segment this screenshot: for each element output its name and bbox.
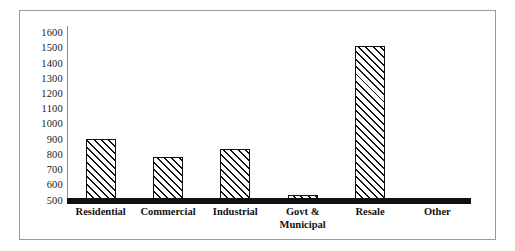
bar-slot — [404, 26, 471, 201]
y-axis-tick-label: 800 — [47, 150, 63, 161]
x-axis-category-labels: ResidentialCommercialIndustrialGovt & Mu… — [67, 206, 471, 240]
chart-frame: 5006007008009001000110012001300140015001… — [19, 10, 496, 240]
bars-layer — [67, 26, 471, 204]
bar — [355, 46, 385, 201]
y-axis-tick-label: 1000 — [41, 119, 63, 130]
bar-slot — [269, 26, 336, 201]
x-axis-baseline — [67, 198, 471, 204]
y-axis-tick-label: 1100 — [42, 104, 63, 115]
y-axis-tick-label: 1200 — [41, 89, 63, 100]
x-axis-tick-label: Other — [394, 206, 480, 219]
y-axis-tick-label: 500 — [47, 196, 63, 207]
y-axis-tick-label: 1600 — [41, 28, 63, 39]
plot-area — [67, 26, 471, 204]
y-axis-tick-labels: 5006007008009001000110012001300140015001… — [20, 26, 67, 204]
chart-figure: 5006007008009001000110012001300140015001… — [0, 0, 515, 251]
bar — [153, 157, 183, 201]
bar-slot — [202, 26, 269, 201]
y-axis-tick-label: 900 — [47, 135, 63, 146]
bar-slot — [134, 26, 201, 201]
bar-slot — [336, 26, 403, 201]
y-axis-tick-label: 1300 — [41, 74, 63, 85]
y-axis-tick-label: 1400 — [41, 59, 63, 70]
bar-slot — [67, 26, 134, 201]
bar — [86, 139, 116, 201]
y-axis-tick-label: 600 — [47, 180, 63, 191]
y-axis-tick-label: 700 — [47, 165, 63, 176]
bar — [220, 149, 250, 201]
y-axis-tick-label: 1500 — [41, 43, 63, 54]
